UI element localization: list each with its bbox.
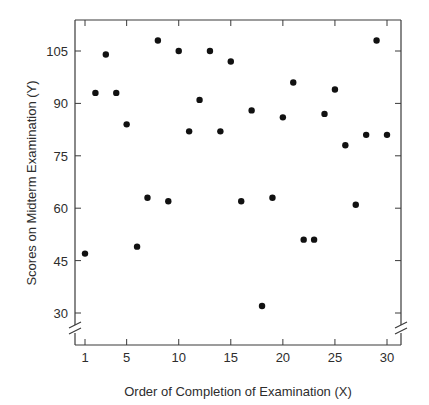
data-point bbox=[92, 90, 98, 96]
data-point bbox=[176, 48, 182, 54]
data-point bbox=[207, 48, 213, 54]
data-point bbox=[238, 198, 244, 204]
y-axis-title: Scores on Midterm Examination (Y) bbox=[24, 80, 39, 285]
data-point bbox=[300, 236, 306, 242]
x-tick-label: 1 bbox=[81, 350, 88, 365]
x-tick-label: 20 bbox=[276, 350, 290, 365]
data-point bbox=[134, 243, 140, 249]
x-tick-label: 30 bbox=[380, 350, 394, 365]
y-tick-label: 30 bbox=[54, 306, 68, 321]
y-tick-label: 75 bbox=[54, 149, 68, 164]
data-point bbox=[165, 198, 171, 204]
data-point bbox=[82, 250, 88, 256]
data-point bbox=[353, 202, 359, 208]
data-point bbox=[103, 51, 109, 57]
data-point bbox=[363, 132, 369, 138]
axis-break-marks bbox=[69, 322, 407, 334]
data-point bbox=[384, 132, 390, 138]
data-point bbox=[186, 128, 192, 134]
data-point bbox=[311, 236, 317, 242]
data-point bbox=[280, 114, 286, 120]
x-tick-label: 5 bbox=[123, 350, 130, 365]
x-axis-title: Order of Completion of Examination (X) bbox=[124, 384, 352, 399]
scatter-chart: 1510152025303045607590105 Order of Compl… bbox=[0, 0, 429, 405]
y-tick-label: 105 bbox=[46, 44, 68, 59]
data-point bbox=[155, 37, 161, 43]
data-point bbox=[342, 142, 348, 148]
y-tick-label: 45 bbox=[54, 254, 68, 269]
data-point bbox=[144, 195, 150, 201]
data-point bbox=[248, 107, 254, 113]
x-tick-label: 25 bbox=[328, 350, 342, 365]
axis-ticks bbox=[75, 20, 401, 345]
plot-frame bbox=[75, 20, 401, 345]
data-point bbox=[196, 97, 202, 103]
data-point bbox=[290, 79, 296, 85]
data-point bbox=[373, 37, 379, 43]
data-point bbox=[123, 121, 129, 127]
data-point bbox=[259, 303, 265, 309]
data-point bbox=[228, 58, 234, 64]
y-tick-label: 60 bbox=[54, 201, 68, 216]
data-point bbox=[113, 90, 119, 96]
x-tick-label: 15 bbox=[224, 350, 238, 365]
data-points bbox=[82, 37, 390, 309]
x-tick-label: 10 bbox=[171, 350, 185, 365]
data-point bbox=[217, 128, 223, 134]
data-point bbox=[269, 195, 275, 201]
y-tick-label: 90 bbox=[54, 96, 68, 111]
data-point bbox=[321, 111, 327, 117]
data-point bbox=[332, 86, 338, 92]
